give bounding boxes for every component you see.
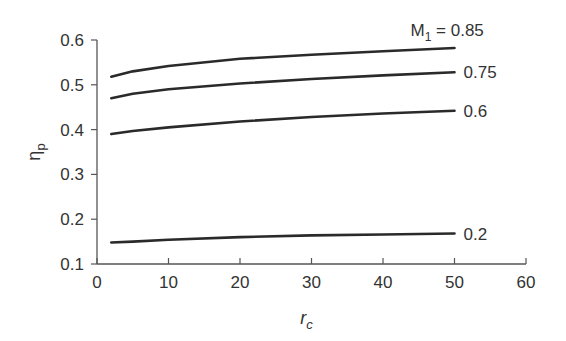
x-tick-label: 10: [159, 273, 178, 292]
x-tick-label: 40: [374, 273, 393, 292]
chart: 01020304050600.10.20.30.40.50.6rcηpM1 = …: [0, 0, 566, 341]
x-tick-label: 0: [92, 273, 101, 292]
x-tick-label: 30: [302, 273, 321, 292]
series-label: 0.2: [464, 225, 488, 244]
y-tick-label: 0.3: [60, 165, 84, 184]
series-label: 0.75: [464, 63, 497, 82]
series-line: [111, 48, 454, 77]
y-tick-label: 0.5: [60, 76, 84, 95]
series-line: [111, 72, 454, 98]
x-tick-label: 60: [517, 273, 536, 292]
series-line: [111, 111, 454, 134]
y-axis-title: ηp: [24, 143, 48, 160]
x-tick-label: 20: [231, 273, 250, 292]
y-tick-label: 0.2: [60, 210, 84, 229]
y-tick-label: 0.4: [60, 121, 84, 140]
x-axis-title: rc: [300, 308, 313, 332]
series-line: [111, 234, 454, 243]
x-tick-label: 50: [445, 273, 464, 292]
series-label: 0.6: [464, 102, 488, 121]
y-tick-label: 0.1: [60, 255, 84, 274]
y-tick-label: 0.6: [60, 31, 84, 50]
series-label: M1 = 0.85: [411, 21, 484, 44]
